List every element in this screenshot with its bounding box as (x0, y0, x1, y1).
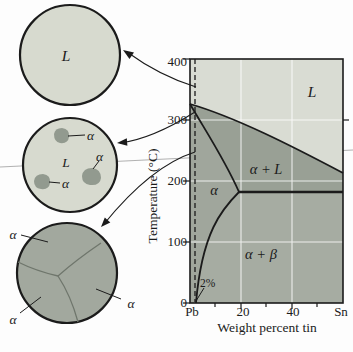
x-tick-40: 40 (287, 304, 300, 319)
micrograph-liquid-alpha: L α α α (23, 118, 117, 212)
alpha-particle-3 (34, 174, 50, 189)
arrowhead-liquid-icon (123, 50, 134, 59)
liquid-circle-label: L (61, 47, 71, 64)
x-tick-20: 20 (237, 304, 250, 319)
grain-label-1: α (9, 227, 17, 242)
y-tick-100: 100 (168, 234, 188, 249)
alpha-plus-l-label: α + L (250, 161, 283, 177)
particle-label-2: α (96, 149, 104, 164)
y-tick-400: 400 (168, 54, 188, 69)
phase-diagram-plot: 400 300 200 100 0 Pb 20 40 Sn Weight per… (145, 54, 349, 335)
alpha-label: α (210, 182, 218, 198)
x-axis-title: Weight percent tin (217, 320, 317, 335)
liquid-matrix-label: L (61, 155, 70, 170)
micrograph-alpha-grains: α α α (9, 223, 135, 327)
composition-2pct-label: 2% (200, 277, 216, 289)
liquid-alpha-circle (23, 118, 117, 212)
particle-label-1: α (87, 128, 95, 143)
grain-label-3: α (127, 296, 135, 311)
arrowhead-liquid-alpha-icon (117, 138, 127, 146)
y-tick-labels: 400 300 200 100 0 (168, 54, 188, 310)
alpha-plus-beta-label: α + β (245, 246, 278, 262)
alpha-particle-1 (54, 128, 69, 143)
liquid-region-label: L (307, 83, 317, 100)
x-tick-pb: Pb (185, 304, 199, 319)
figure-canvas: 400 300 200 100 0 Pb 20 40 Sn Weight per… (0, 0, 353, 352)
particle-label-3: α (62, 176, 70, 191)
alpha-particle-2 (82, 168, 101, 185)
arrowhead-alpha-grains-icon (101, 218, 110, 228)
phase-diagram-figure: 400 300 200 100 0 Pb 20 40 Sn Weight per… (0, 0, 353, 352)
x-tick-sn: Sn (334, 304, 348, 319)
y-axis-title: Temperature (°C) (145, 149, 160, 244)
grain-label-2: α (9, 312, 17, 327)
micrograph-liquid: L (20, 5, 120, 105)
y-tick-200: 200 (168, 173, 188, 188)
y-tick-300: 300 (168, 112, 188, 127)
x-tick-labels: Pb 20 40 Sn (185, 304, 348, 319)
